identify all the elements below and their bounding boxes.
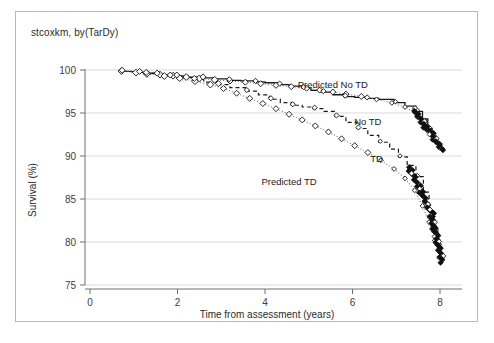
- marker-predicted-td-7: [247, 95, 253, 101]
- x-axis-title: Time from assessment (years): [200, 309, 335, 320]
- marker-predicted-no-td-17: [358, 93, 364, 99]
- y-tick-label-80: 80: [65, 237, 77, 248]
- annotation-td: TD: [370, 153, 383, 164]
- curve-annotations: Predicted No TDNo TDTDPredicted TD: [261, 79, 383, 187]
- y-tick-label-95: 95: [65, 108, 77, 119]
- x-tick-label-2: 2: [175, 297, 181, 308]
- marker-predicted-td-9: [273, 106, 279, 112]
- annotation-predicted-no-td: Predicted No TD: [298, 79, 368, 90]
- x-tick-label-6: 6: [350, 297, 356, 308]
- y-tick-label-85: 85: [65, 194, 77, 205]
- y-tick-label-100: 100: [59, 65, 76, 76]
- marker-predicted-td-11: [299, 117, 305, 123]
- screenshot-page: stcoxkm, by(TarDy) 7580859095100 02468 P…: [0, 0, 494, 343]
- marker-predicted-td-14: [339, 136, 345, 142]
- annotation-no-td: No TD: [354, 116, 381, 127]
- marker-predicted-td-5: [220, 85, 226, 91]
- marker-predicted-td-13: [325, 129, 331, 135]
- survival-chart: 7580859095100 02468 Predicted No TDNo TD…: [0, 0, 494, 343]
- marker-predicted-td-10: [286, 111, 292, 117]
- annotation-predicted-td: Predicted TD: [261, 176, 316, 187]
- y-tick-label-90: 90: [65, 151, 77, 162]
- x-tick-label-8: 8: [437, 297, 443, 308]
- series-layer: [121, 71, 441, 259]
- marker-no-td-obs-22: [365, 95, 370, 100]
- x-tick-label-0: 0: [87, 297, 93, 308]
- marker-td-obs-16: [334, 113, 339, 118]
- y-axis-ticks: 7580859095100: [59, 65, 85, 291]
- x-axis-ticks: 02468: [87, 289, 443, 308]
- marker-predicted-td-15: [352, 143, 358, 149]
- marker-td-obs-14: [312, 105, 317, 110]
- marker-predicted-no-td-20: [403, 105, 408, 110]
- page-bottom-strip: [0, 330, 494, 343]
- y-tick-label-75: 75: [65, 280, 77, 291]
- marker-layer: [118, 67, 446, 265]
- x-tick-label-4: 4: [262, 297, 268, 308]
- y-axis-title: Survival (%): [27, 163, 38, 217]
- marker-predicted-td-6: [234, 90, 240, 96]
- marker-predicted-td-12: [312, 123, 318, 129]
- marker-predicted-no-td-9: [242, 79, 248, 85]
- marker-predicted-td-8: [260, 101, 266, 107]
